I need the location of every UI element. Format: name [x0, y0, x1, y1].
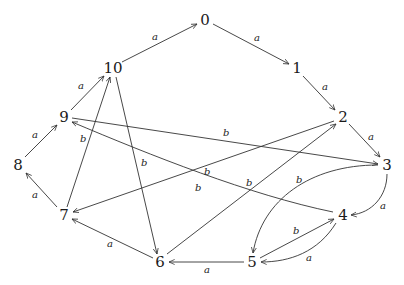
edge-10-6: [116, 77, 157, 254]
edge-1-2: [303, 76, 335, 110]
edge-0-1: [213, 24, 289, 64]
label-3-4: a: [380, 200, 386, 211]
label-1-2: a: [322, 81, 328, 92]
label-8-9: a: [32, 129, 38, 140]
node-0: 0: [200, 11, 210, 29]
label-7-8: a: [32, 189, 38, 200]
edge-8-9: [25, 125, 57, 157]
label-10-0: a: [152, 31, 158, 42]
label-4-5: a: [306, 252, 312, 263]
label-10-6: b: [141, 157, 147, 168]
label-9-3: b: [223, 127, 229, 138]
node-1: 1: [292, 59, 302, 77]
label-6-7: a: [107, 238, 113, 249]
edge-7-10: [67, 77, 110, 207]
label-4-9: b: [195, 182, 201, 193]
edge-10-0: [122, 24, 197, 62]
edge-9-10: [71, 76, 104, 110]
edge-3-5: [253, 165, 378, 253]
label-0-1: a: [254, 32, 260, 43]
edge-6-2: [167, 124, 336, 254]
node-3: 3: [382, 156, 392, 174]
node-5: 5: [247, 253, 257, 271]
label-5-4: b: [293, 225, 299, 236]
node-6: 6: [155, 253, 165, 271]
edge-7-8: [26, 173, 57, 207]
node-10: 10: [103, 59, 122, 77]
node-4: 4: [338, 206, 348, 224]
label-5-6: a: [204, 264, 210, 275]
node-7: 7: [59, 206, 69, 224]
label-7-10: b: [80, 133, 86, 144]
edge-2-3: [349, 124, 380, 157]
label-2-3: a: [368, 131, 374, 142]
label-2-7: b: [204, 166, 210, 177]
label-6-2: b: [246, 177, 252, 188]
state-graph: a a a a a a a a a a a b b b b b b b b 0 …: [0, 0, 404, 285]
label-3-5: b: [296, 174, 302, 185]
label-9-10: a: [78, 80, 84, 91]
node-8: 8: [13, 156, 23, 174]
node-9: 9: [59, 108, 69, 126]
node-2: 2: [338, 108, 348, 126]
